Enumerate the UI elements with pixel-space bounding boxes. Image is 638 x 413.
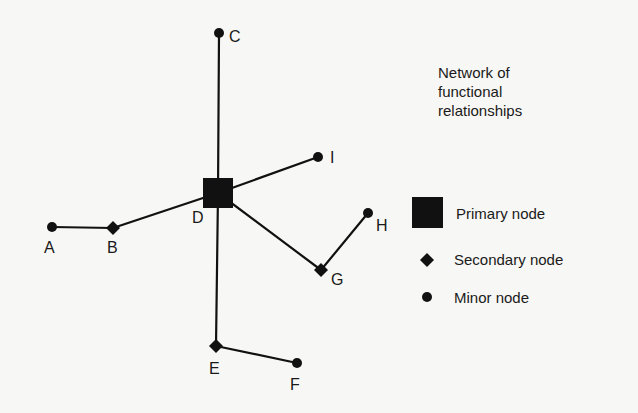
- node-label-g: G: [331, 272, 343, 288]
- edge-a-b: [52, 227, 113, 228]
- legend-minor-circle-icon: [422, 292, 432, 302]
- minor-node-i: [313, 152, 323, 162]
- node-label-d: D: [192, 210, 204, 226]
- node-label-a: A: [44, 240, 55, 256]
- diagram-title: Network of functional relationships: [438, 63, 522, 120]
- minor-node-a: [47, 222, 57, 232]
- secondary-node-b: [106, 221, 120, 235]
- title-line-3: relationships: [438, 101, 522, 120]
- minor-node-h: [363, 208, 373, 218]
- legend-primary-label: Primary node: [456, 206, 545, 222]
- title-line-1: Network of: [438, 63, 522, 82]
- edge-c-d: [218, 33, 219, 193]
- minor-node-f: [292, 358, 302, 368]
- legend-secondary-diamond-icon: [420, 253, 434, 267]
- edge-e-f: [216, 346, 297, 363]
- node-label-e: E: [209, 361, 220, 377]
- edge-g-h: [321, 213, 368, 270]
- secondary-node-e: [209, 339, 223, 353]
- minor-node-c: [214, 28, 224, 38]
- node-label-h: H: [376, 218, 388, 234]
- primary-node-d: [203, 178, 233, 208]
- node-label-i: I: [330, 150, 334, 166]
- node-label-b: B: [107, 240, 118, 256]
- node-label-f: F: [290, 377, 300, 393]
- edge-d-g: [218, 193, 321, 270]
- legend-secondary-label: Secondary node: [454, 252, 563, 268]
- legend-primary-square-icon: [412, 197, 443, 228]
- title-line-2: functional: [438, 82, 522, 101]
- edge-d-e: [216, 193, 218, 346]
- legend-minor-label: Minor node: [454, 290, 529, 306]
- node-label-c: C: [229, 29, 241, 45]
